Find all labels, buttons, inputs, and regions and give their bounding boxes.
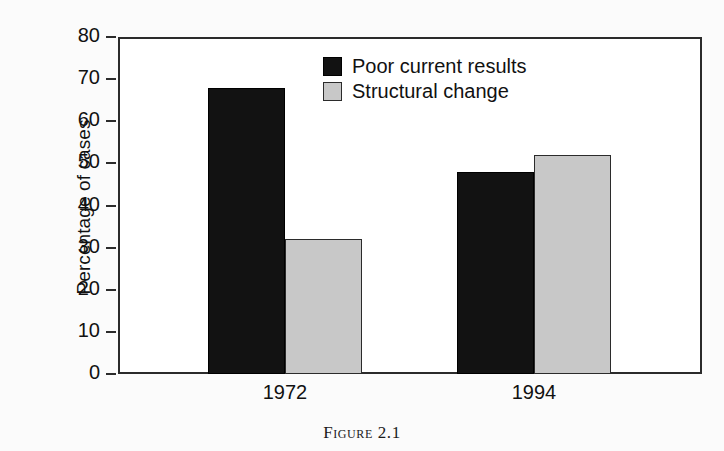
y-tick-mark: [106, 373, 116, 375]
legend-item-1: Poor current results: [323, 54, 527, 79]
y-tick-mark: [106, 120, 116, 122]
y-tick-mark: [106, 331, 116, 333]
x-axis-label-1994: 1994: [454, 381, 614, 404]
y-tick-mark: [106, 247, 116, 249]
y-tick-mark: [106, 78, 116, 80]
bar-1994-series-1: [457, 172, 534, 374]
bar-1972-series-2: [285, 239, 362, 374]
y-tick-mark: [106, 205, 116, 207]
gray-square-swatch: [323, 82, 342, 101]
figure-caption: Figure 2.1: [0, 423, 724, 443]
legend-label: Poor current results: [352, 55, 527, 78]
y-tick-label: 20: [78, 277, 100, 300]
y-tick-label: 0: [89, 361, 100, 384]
y-tick-label: 30: [78, 235, 100, 258]
x-axis-label-1972: 1972: [205, 381, 365, 404]
figure-container: Percentage of cases 01020304050607080 19…: [0, 0, 724, 451]
y-tick-label: 70: [78, 66, 100, 89]
y-tick-label: 40: [78, 193, 100, 216]
bar-1972-series-1: [208, 88, 285, 374]
y-tick-mark: [106, 36, 116, 38]
y-tick-mark: [106, 289, 116, 291]
bar-1994-series-2: [534, 155, 611, 374]
black-square-swatch: [323, 57, 342, 76]
y-tick-label: 80: [78, 24, 100, 47]
y-tick-label: 10: [78, 319, 100, 342]
y-tick-label: 50: [78, 150, 100, 173]
legend-label: Structural change: [352, 80, 509, 103]
legend-item-2: Structural change: [323, 79, 527, 104]
y-tick-label: 60: [78, 108, 100, 131]
chart-legend: Poor current resultsStructural change: [323, 54, 527, 104]
y-tick-mark: [106, 162, 116, 164]
